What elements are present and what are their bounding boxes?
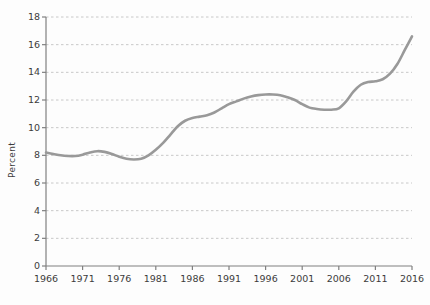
line-chart: Percent 024681012141618 1966197119761981…: [0, 0, 430, 305]
gridlines: [46, 17, 412, 238]
data-series-line: [46, 36, 412, 159]
plot-area: [0, 0, 430, 305]
